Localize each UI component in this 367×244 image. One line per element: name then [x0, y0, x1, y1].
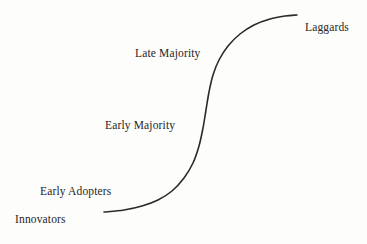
label-late-majority: Late Majority: [135, 47, 201, 60]
adoption-s-curve-line: [104, 15, 297, 212]
s-curve-plot: [0, 0, 367, 244]
label-early-adopters: Early Adopters: [40, 185, 111, 198]
label-laggards: Laggards: [305, 21, 349, 34]
label-early-majority: Early Majority: [105, 119, 175, 132]
adoption-curve-figure: Innovators Early Adopters Early Majority…: [0, 0, 367, 244]
label-innovators: Innovators: [15, 213, 66, 226]
